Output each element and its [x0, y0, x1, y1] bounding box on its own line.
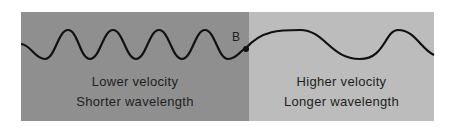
right-medium-label-velocity: Higher velocity	[249, 74, 434, 89]
short-wave	[21, 30, 246, 59]
left-medium-label-wavelength: Shorter wavelength	[21, 94, 249, 109]
right-medium-label-wavelength: Longer wavelength	[249, 94, 434, 109]
left-medium-label-velocity: Lower velocity	[21, 74, 249, 89]
boundary-point-marker	[243, 46, 249, 52]
long-wave	[246, 30, 434, 59]
boundary-point-label: B	[232, 30, 240, 44]
